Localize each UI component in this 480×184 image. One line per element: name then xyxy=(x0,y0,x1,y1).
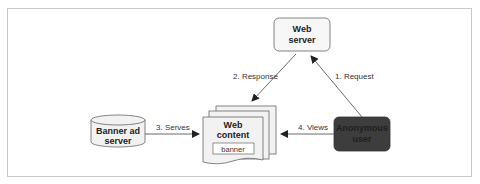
edge-label-views: 4. Views xyxy=(298,123,328,132)
edge-views: 4. Views xyxy=(281,123,334,134)
banner-ad-server-label-2: server xyxy=(104,136,132,146)
edge-response: 2. Response xyxy=(233,54,296,101)
anonymous-user-label-2: user xyxy=(352,134,372,144)
edge-label-serves: 3. Serves xyxy=(156,123,190,132)
web-content-node: Web content banner xyxy=(203,106,276,164)
banner-ad-server-node: Banner ad server xyxy=(91,115,145,147)
edge-request: 1. Request xyxy=(311,56,374,117)
banner-label: banner xyxy=(221,145,245,154)
banner-ad-server-label-1: Banner ad xyxy=(96,126,140,136)
web-server-node: Web server xyxy=(274,18,330,51)
edge-label-request: 1. Request xyxy=(335,72,374,81)
anonymous-user-label-1: Anonymous xyxy=(336,123,388,133)
edge-label-response: 2. Response xyxy=(233,72,278,81)
web-server-label-2: server xyxy=(288,35,316,45)
web-content-label-2: content xyxy=(217,130,250,140)
edge-serves: 3. Serves xyxy=(145,123,199,134)
anonymous-user-node: Anonymous user xyxy=(334,117,390,151)
web-server-label-1: Web xyxy=(293,24,312,34)
web-content-label-1: Web xyxy=(224,120,243,130)
data-flow-diagram: Web server Web content banner Banner ad … xyxy=(0,0,480,184)
